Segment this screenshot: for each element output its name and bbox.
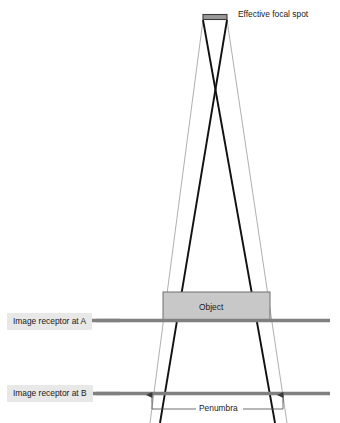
beam-inner-right-line bbox=[227, 20, 287, 423]
image-receptor-a-label: Image receptor at A bbox=[7, 313, 92, 330]
beam-outer-rays bbox=[160, 20, 275, 423]
effective-focal-spot-label: Effective focal spot bbox=[238, 10, 308, 18]
beam-outer-left-line bbox=[160, 20, 227, 423]
effective-focal-spot bbox=[203, 15, 227, 20]
beam-outer-right-line bbox=[203, 20, 275, 423]
receptor-label-leaders bbox=[96, 321, 120, 394]
beam-inner-left-line bbox=[150, 20, 203, 423]
image-receptor-b-label: Image receptor at B bbox=[7, 385, 93, 402]
focal-spot-bar bbox=[203, 15, 227, 20]
diagram-canvas bbox=[0, 0, 340, 423]
penumbra-diagram: Effective focal spot Object Penumbra Ima… bbox=[0, 0, 340, 423]
object-label: Object bbox=[199, 303, 223, 311]
penumbra-label: Penumbra bbox=[199, 404, 238, 412]
